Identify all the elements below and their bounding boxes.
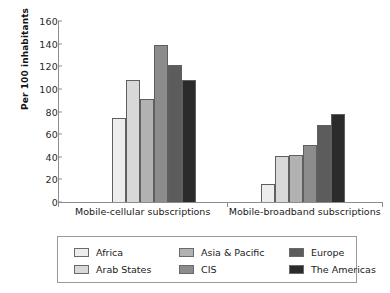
- legend-label: CIS: [201, 264, 216, 275]
- bar: [126, 80, 140, 202]
- bar: [331, 114, 345, 202]
- legend-item: Arab States: [74, 264, 179, 275]
- bar: [154, 45, 168, 202]
- x-axis-line: [58, 202, 383, 203]
- legend-label: Europe: [311, 247, 344, 258]
- x-axis-category-label: Mobile-cellular subscriptions: [58, 206, 227, 217]
- y-axis-tick-label: 140: [0, 38, 65, 49]
- x-axis-category-label: Mobile-broadband subscriptions: [227, 206, 382, 217]
- legend-item: Asia & Pacific: [179, 247, 289, 258]
- legend-swatch-icon: [74, 265, 89, 274]
- bar: [112, 118, 126, 202]
- legend-item: The Americas: [289, 264, 376, 275]
- legend-label: Asia & Pacific: [201, 247, 265, 258]
- legend-label: The Americas: [311, 264, 376, 275]
- x-axis-tick-mark: [382, 202, 383, 207]
- legend-label: Arab States: [96, 264, 151, 275]
- bar: [168, 65, 182, 202]
- bar: [289, 155, 303, 203]
- bar-group: [112, 21, 196, 202]
- legend-label: Africa: [96, 247, 123, 258]
- y-axis-tick-label: 60: [0, 129, 65, 140]
- plot-area: [58, 21, 382, 202]
- legend-swatch-icon: [179, 265, 194, 274]
- bar-chart: Per 100 inhabitants 02040608010012014016…: [0, 0, 390, 293]
- bar: [182, 80, 196, 202]
- y-axis-tick-label: 0: [0, 197, 65, 208]
- bar: [261, 184, 275, 202]
- y-axis-tick-label: 80: [0, 106, 65, 117]
- legend-item: CIS: [179, 264, 289, 275]
- chart-legend: AfricaAsia & PacificEuropeArab StatesCIS…: [57, 236, 357, 283]
- bar: [275, 156, 289, 202]
- bar: [303, 145, 317, 202]
- legend-item: Europe: [289, 247, 376, 258]
- bar-group: [261, 21, 345, 202]
- y-axis-tick-label: 40: [0, 151, 65, 162]
- y-axis-tick-label: 160: [0, 16, 65, 27]
- bar: [140, 99, 154, 202]
- legend-swatch-icon: [289, 248, 304, 257]
- y-axis-tick-label: 120: [0, 61, 65, 72]
- legend-item: Africa: [74, 247, 179, 258]
- legend-swatch-icon: [74, 248, 89, 257]
- legend-swatch-icon: [179, 248, 194, 257]
- y-axis-tick-label: 100: [0, 83, 65, 94]
- bar: [317, 125, 331, 202]
- y-axis-tick-label: 20: [0, 174, 65, 185]
- legend-swatch-icon: [289, 265, 304, 274]
